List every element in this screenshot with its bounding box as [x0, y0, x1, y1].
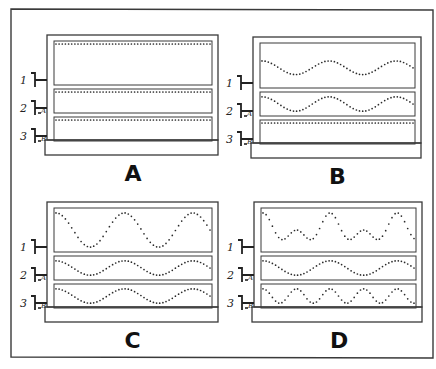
panel-label: C	[125, 328, 141, 353]
channel-tag-label: A	[40, 107, 46, 115]
channel-index-label: 2	[226, 269, 234, 282]
channel-index-label: 3	[226, 133, 233, 146]
channel-2-screen	[54, 256, 212, 280]
channel-index-label: 2	[19, 102, 27, 115]
probe-connector-icon	[238, 239, 254, 254]
panel-label: A	[125, 161, 142, 186]
channel-2-screen	[261, 256, 416, 280]
cabinet-base	[251, 143, 421, 158]
panel-c: 12A3BC	[19, 202, 218, 353]
cabinet-base	[45, 140, 218, 155]
channel-1-screen	[260, 43, 415, 88]
probe-connector-icon	[31, 239, 47, 254]
cabinet-base	[45, 307, 218, 322]
channel-index-label: 2	[19, 269, 27, 282]
channel-index-label: 3	[227, 297, 234, 310]
channel-index-label: 1	[227, 241, 234, 254]
channel-tag-label: A	[246, 110, 252, 118]
panel-label: D	[330, 328, 348, 353]
channel-index-label: 1	[20, 74, 27, 87]
channel-1-screen	[54, 41, 212, 85]
channel-index-label: 2	[225, 105, 233, 118]
channel-2-screen	[260, 92, 415, 116]
screen-cabinet	[47, 202, 218, 307]
channel-index-label: 1	[226, 77, 233, 90]
channel-index-label: 3	[20, 130, 27, 143]
channel-index-label: 1	[20, 241, 27, 254]
cabinet-base	[252, 307, 422, 322]
panel-label: B	[329, 164, 346, 189]
outer-frame	[11, 9, 433, 358]
channel-1-screen	[261, 208, 416, 252]
probe-connector-icon	[31, 72, 47, 87]
probe-connector-icon	[237, 75, 253, 90]
panel-b: 12A3BB	[225, 37, 421, 189]
panel-a: 12A3BA	[19, 35, 218, 186]
screen-cabinet	[254, 202, 422, 307]
channel-3-screen	[54, 284, 212, 308]
screen-cabinet	[253, 37, 421, 143]
screen-cabinet	[47, 35, 218, 140]
panel-d: 12A3BD	[226, 202, 422, 353]
oscilloscope-diagram: 12A3BA12A3BB12A3BC12A3BD	[0, 0, 436, 369]
figure-canvas: 12A3BA12A3BB12A3BC12A3BD	[0, 0, 436, 369]
channel-index-label: 3	[20, 297, 27, 310]
